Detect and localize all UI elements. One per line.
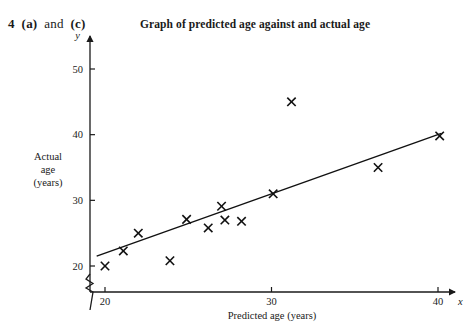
x-tick-label-20: 20 [100,296,111,307]
data-point-4 [182,215,190,223]
axis-labels-group: yxActualage(years)Predicted age (years) [33,30,463,322]
data-point-8 [237,217,245,225]
y-tick-label-30: 30 [73,195,84,206]
worksheet-page: 4 (a) and (c) Graph of predicted age aga… [0,0,469,328]
x-axis-label: Predicted age (years) [228,310,317,322]
x-axis-symbol: x [457,296,463,307]
data-points-group [101,98,444,271]
data-point-12 [435,132,443,140]
data-point-2 [134,229,142,237]
y-axis-label-line-3: (years) [33,177,63,189]
data-point-6 [217,202,225,210]
y-tick-label-50: 50 [73,64,84,75]
y-axis-label-line-2: age [41,164,56,175]
data-point-3 [166,257,174,265]
x-axis-arrow-icon [449,288,456,295]
x-tick-label-40: 40 [433,296,444,307]
data-point-5 [204,224,212,232]
trend-line [97,133,442,256]
ticks-group: 20304050203040 [73,64,444,307]
data-point-11 [374,163,382,171]
data-point-7 [221,216,229,224]
line-of-best-fit [97,133,442,256]
y-tick-label-20: 20 [73,261,84,272]
data-point-10 [287,98,295,106]
scatter-plot: 20304050203040 yxActualage(years)Predict… [0,0,469,328]
axes-group [86,35,456,296]
data-point-1 [119,247,127,255]
y-axis-arrow-icon [86,35,93,42]
y-tick-label-40: 40 [73,129,84,140]
x-tick-label-30: 30 [266,296,277,307]
y-axis-label-line-1: Actual [34,151,62,162]
y-axis-symbol: y [74,30,80,41]
data-point-0 [101,262,109,270]
